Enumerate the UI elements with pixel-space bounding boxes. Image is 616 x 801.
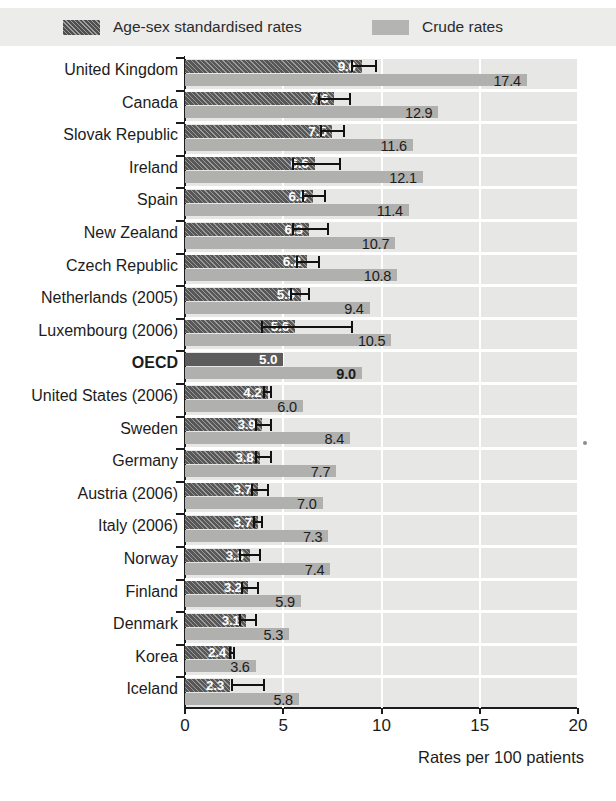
category-label: Germany [112, 452, 178, 470]
value-label-standardised: 5.0 [185, 352, 277, 367]
value-label-crude: 9.0 [185, 366, 356, 382]
error-bar-cap-lower [253, 516, 255, 528]
chart-row: Canada7.612.9 [0, 89, 616, 122]
y-tick [176, 90, 185, 92]
error-bar [242, 587, 258, 589]
value-label-crude: 11.6 [185, 138, 407, 154]
error-bar-cap-upper [270, 386, 272, 398]
error-bar [303, 195, 325, 197]
legend-label-standardised: Age-sex standardised rates [113, 18, 302, 36]
error-bar-cap-lower [320, 125, 322, 137]
y-tick [176, 644, 185, 646]
value-label-standardised: 6.5 [185, 189, 307, 204]
category-label: Czech Republic [66, 257, 178, 275]
value-label-standardised: 4.2 [185, 385, 262, 400]
category-label: Finland [126, 583, 178, 601]
y-tick [176, 579, 185, 581]
error-bar [293, 163, 340, 165]
category-label: Slovak Republic [63, 126, 178, 144]
error-bar-cap-lower [255, 451, 257, 463]
chart-row: Netherlands (2005)5.99.4 [0, 284, 616, 317]
category-label: OECD [132, 354, 178, 372]
error-bar-cap-upper [318, 256, 320, 268]
value-label-standardised: 2.4 [185, 645, 226, 660]
y-tick [176, 187, 185, 189]
category-label: Iceland [126, 680, 178, 698]
error-bar-cap-upper [270, 419, 272, 431]
y-tick [176, 122, 185, 124]
value-label-standardised: 3.9 [185, 417, 256, 432]
error-bar-cap-upper [257, 582, 259, 594]
y-tick [176, 383, 185, 385]
error-bar-cap-upper [324, 190, 326, 202]
error-bar-cap-lower [318, 93, 320, 105]
chart-legend: Age-sex standardised rates Crude rates [0, 8, 616, 46]
error-bar-cap-lower [302, 190, 304, 202]
legend-item-crude: Crude rates [372, 8, 503, 46]
chart-row: Korea2.43.6 [0, 643, 616, 676]
error-bar-cap-lower [261, 321, 263, 333]
chart-row: Czech Republic6.210.8 [0, 252, 616, 285]
x-tick-label-5: 5 [263, 716, 303, 736]
value-label-standardised: 3.7 [185, 482, 252, 497]
value-label-crude: 7.3 [185, 529, 322, 545]
error-bar [352, 65, 376, 67]
chart-row: OECD5.09.0 [0, 349, 616, 382]
error-bar-cap-lower [241, 582, 243, 594]
y-tick [176, 676, 185, 678]
value-label-crude: 5.3 [185, 627, 283, 643]
error-bar [232, 684, 263, 686]
value-label-standardised: 6.2 [185, 254, 301, 269]
error-bar-cap-upper [351, 321, 353, 333]
error-bar [240, 554, 260, 556]
error-bar-cap-upper [308, 288, 310, 300]
value-label-standardised: 6.3 [185, 222, 303, 237]
value-label-standardised: 3.8 [185, 450, 254, 465]
value-label-standardised: 3.7 [185, 515, 252, 530]
error-bar-cap-lower [239, 614, 241, 626]
y-tick [176, 416, 185, 418]
category-label: United States (2006) [31, 387, 178, 405]
error-bar-cap-lower [229, 647, 231, 659]
error-bar-cap-lower [351, 60, 353, 72]
value-label-crude: 12.1 [185, 170, 417, 186]
error-bar-cap-upper [375, 60, 377, 72]
value-label-crude: 10.7 [185, 236, 389, 252]
error-bar-cap-lower [296, 256, 298, 268]
x-tick-label-10: 10 [362, 716, 402, 736]
y-tick [176, 253, 185, 255]
legend-label-crude: Crude rates [422, 18, 503, 36]
error-bar-cap-upper [343, 125, 345, 137]
y-tick [176, 481, 185, 483]
y-tick [176, 611, 185, 613]
value-label-crude: 8.4 [185, 431, 344, 447]
light-gray-swatch-icon [372, 20, 409, 35]
error-bar [321, 130, 345, 132]
value-label-standardised: 7.6 [185, 91, 328, 106]
error-bar [240, 619, 256, 621]
x-tick-label-20: 20 [558, 716, 598, 736]
value-label-crude: 7.0 [185, 496, 317, 512]
category-label: Canada [122, 94, 178, 112]
value-label-standardised: 6.6 [185, 156, 309, 171]
value-label-crude: 17.4 [185, 73, 521, 89]
error-bar [291, 293, 309, 295]
y-tick [176, 220, 185, 222]
value-label-standardised: 3.3 [185, 548, 244, 563]
chart-row: Iceland2.35.8 [0, 675, 616, 708]
value-label-crude: 5.8 [185, 692, 293, 708]
x-tick-5 [282, 708, 284, 714]
error-bar-cap-lower [292, 158, 294, 170]
chart-row: New Zealand6.310.7 [0, 219, 616, 252]
category-label: Denmark [113, 615, 178, 633]
legend-item-standardised: Age-sex standardised rates [63, 8, 302, 46]
chart-row: Luxembourg (2006)5.610.5 [0, 317, 616, 350]
x-axis-title: Rates per 100 patients [418, 748, 584, 767]
chart-row: Norway3.37.4 [0, 545, 616, 578]
category-label: United Kingdom [64, 61, 178, 79]
category-label: Luxembourg (2006) [38, 322, 178, 340]
print-speck-artifact [583, 441, 587, 445]
x-tick-label-15: 15 [460, 716, 500, 736]
error-bar-cap-upper [327, 223, 329, 235]
value-label-crude: 7.7 [185, 464, 330, 480]
